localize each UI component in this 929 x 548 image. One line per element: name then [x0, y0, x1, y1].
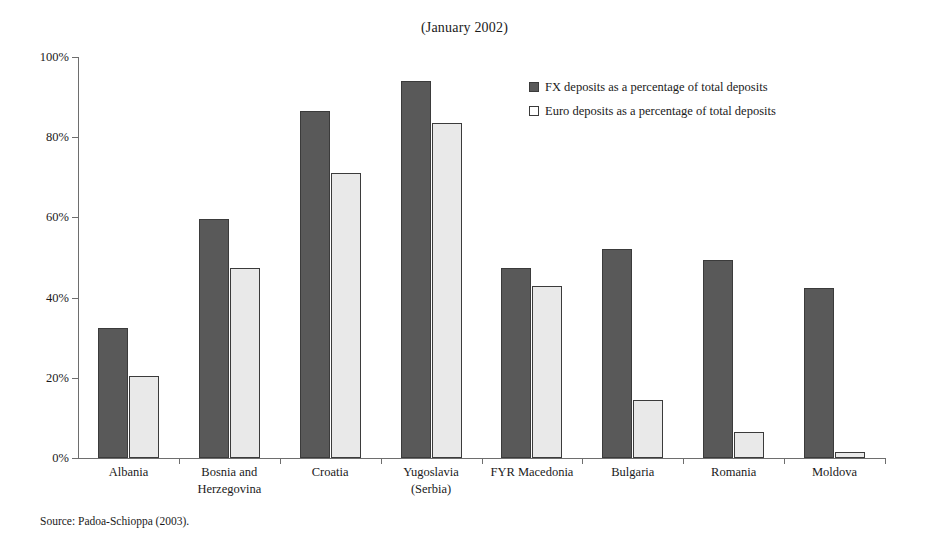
bar-fx [300, 111, 330, 458]
legend-label-fx: FX deposits as a percentage of total dep… [545, 75, 768, 99]
y-axis-line [78, 57, 79, 458]
x-axis-category-label: Moldova [784, 464, 885, 481]
y-tick [72, 458, 78, 459]
bar-euro [432, 123, 462, 458]
bar-group [804, 57, 865, 458]
x-axis-category-label: Bulgaria [582, 464, 683, 481]
y-tick-label: 20% [46, 370, 69, 385]
bar-fx [199, 219, 229, 458]
bar-euro [633, 400, 663, 458]
x-axis-category-label: Albania [78, 464, 179, 481]
y-tick [72, 298, 78, 299]
bar-euro [129, 376, 159, 458]
y-tick-label: 60% [46, 210, 69, 225]
bar-fx [98, 328, 128, 458]
bar-euro [734, 432, 764, 458]
y-tick [72, 378, 78, 379]
bar-fx [401, 81, 431, 458]
x-axis-category-label: Bosnia and Herzegovina [179, 464, 280, 498]
x-axis-category-label: Romania [683, 464, 784, 481]
bar-euro [835, 452, 865, 458]
x-axis-category-label: Croatia [280, 464, 381, 481]
legend-swatch-euro-icon [529, 106, 539, 116]
bar-euro [230, 268, 260, 458]
x-axis-category-label: Yugoslavia (Serbia) [381, 464, 482, 498]
bar-euro [331, 173, 361, 458]
x-tick [885, 458, 886, 464]
y-tick-label: 0% [52, 451, 69, 466]
bar-group [300, 57, 361, 458]
x-axis-category-label: FYR Macedonia [482, 464, 583, 481]
chart-title: (January 2002) [0, 20, 929, 36]
legend: FX deposits as a percentage of total dep… [529, 75, 776, 123]
bar-fx [501, 268, 531, 458]
chart-page: { "chart_data": { "type": "bar", "title"… [0, 0, 929, 548]
bar-fx [804, 288, 834, 458]
source-note: Source: Padoa-Schioppa (2003). [40, 515, 189, 527]
legend-label-euro: Euro deposits as a percentage of total d… [545, 99, 776, 123]
bar-fx [703, 260, 733, 458]
bar-group [199, 57, 260, 458]
bar-fx [602, 249, 632, 458]
bar-euro [532, 286, 562, 458]
bar-group [98, 57, 159, 458]
y-tick [72, 137, 78, 138]
y-tick [72, 217, 78, 218]
legend-swatch-fx-icon [529, 82, 539, 92]
y-tick [72, 57, 78, 58]
y-tick-label: 80% [46, 130, 69, 145]
bar-group [401, 57, 462, 458]
y-tick-label: 40% [46, 290, 69, 305]
legend-item-euro: Euro deposits as a percentage of total d… [529, 99, 776, 123]
legend-item-fx: FX deposits as a percentage of total dep… [529, 75, 776, 99]
y-tick-label: 100% [40, 50, 69, 65]
